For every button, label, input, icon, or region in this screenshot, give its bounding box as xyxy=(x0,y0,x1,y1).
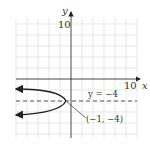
vertex-leader xyxy=(67,102,86,118)
graph: y 10 10 x y = −4 (−1, −4) xyxy=(0,0,150,147)
vertex-label: (−1, −4) xyxy=(86,114,123,124)
y-axis-label: y xyxy=(61,5,68,16)
parabola-upper xyxy=(16,89,66,101)
x-tick-label: 10 xyxy=(124,80,137,91)
line-label: y = −4 xyxy=(87,89,118,99)
y-tick-label: 10 xyxy=(58,19,71,30)
x-axis-label: x xyxy=(142,80,148,91)
parabola-lower xyxy=(16,101,66,115)
